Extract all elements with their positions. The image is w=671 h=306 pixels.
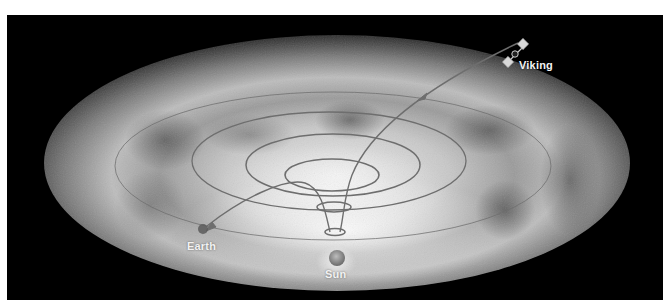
diagram-frame: Viking Earth Sun	[7, 15, 663, 300]
earth-label: Earth	[187, 240, 216, 252]
earth-icon	[198, 224, 208, 234]
viking-label: Viking	[519, 59, 553, 71]
sun-label: Sun	[325, 268, 346, 280]
diagram-canvas	[7, 15, 663, 300]
